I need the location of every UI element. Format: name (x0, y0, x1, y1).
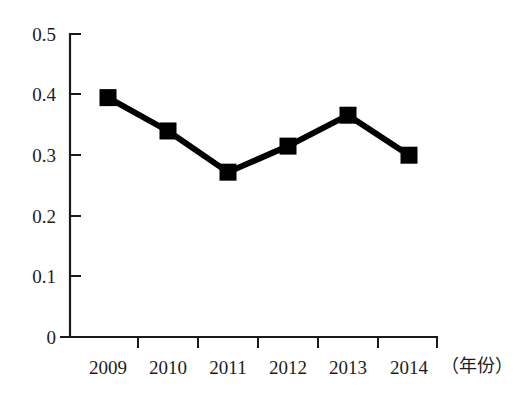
y-axis-tick-labels: 0.5 0.4 0.3 0.2 0.1 0 (32, 24, 56, 348)
x-tick-label-2009: 2009 (89, 357, 127, 378)
line-chart: 0.5 0.4 0.3 0.2 0.1 0 2009 2010 2011 201… (0, 0, 531, 403)
y-tick-label-0.3: 0.3 (32, 145, 56, 166)
x-axis-title: （年份） (441, 356, 513, 376)
data-point-2014 (401, 147, 418, 164)
x-tick-label-2012: 2012 (269, 357, 307, 378)
x-axis-tick-labels: 2009 2010 2011 2012 2013 2014 (89, 357, 429, 378)
y-tick-label-0.5: 0.5 (32, 24, 56, 45)
data-series-line (108, 98, 409, 173)
x-tick-label-2014: 2014 (390, 357, 429, 378)
data-point-2009 (100, 89, 117, 106)
x-tick-label-2010: 2010 (149, 357, 187, 378)
data-point-2012 (280, 138, 297, 155)
chart-canvas: 0.5 0.4 0.3 0.2 0.1 0 2009 2010 2011 201… (0, 0, 531, 403)
x-axis-ticks (138, 337, 437, 348)
y-tick-label-0.4: 0.4 (32, 84, 56, 105)
y-tick-label-0.2: 0.2 (32, 206, 56, 227)
data-point-2013 (340, 107, 357, 124)
x-tick-label-2011: 2011 (209, 357, 246, 378)
y-tick-label-0: 0 (47, 327, 57, 348)
y-tick-label-0.1: 0.1 (32, 266, 56, 287)
data-markers (100, 89, 418, 181)
x-tick-label-2013: 2013 (329, 357, 367, 378)
data-point-2011 (220, 164, 237, 181)
data-point-2010 (160, 122, 177, 139)
